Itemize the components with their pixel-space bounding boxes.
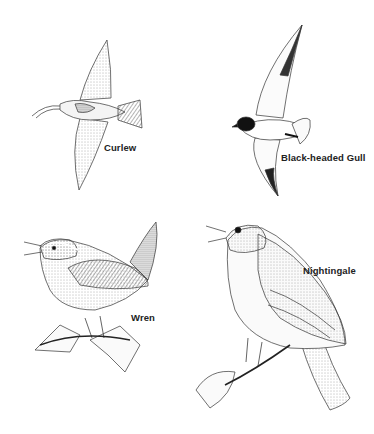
wren-drawing bbox=[24, 222, 157, 372]
curlew-drawing bbox=[32, 40, 142, 190]
nightingale-label: Nightingale bbox=[303, 265, 356, 276]
curlew-label: Curlew bbox=[104, 142, 136, 153]
black-headed-gull-drawing bbox=[232, 25, 310, 196]
bird-drawings bbox=[0, 0, 374, 434]
black-headed-gull-label: Black-headed Gull bbox=[281, 152, 366, 163]
wren-label: Wren bbox=[131, 312, 155, 323]
nightingale-drawing bbox=[196, 225, 350, 410]
bird-illustration-plate: Curlew Black-headed Gull Wren Nightingal… bbox=[0, 0, 374, 434]
